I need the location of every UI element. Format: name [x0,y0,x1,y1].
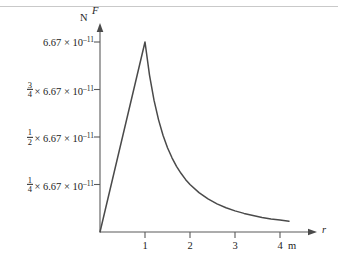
fraction-denominator: 2 [27,138,33,147]
fraction-one-half: 1 2 [27,128,33,146]
y-tick-label-max: 6.67 × 10–11 [43,36,100,49]
y-max-exponent: –11 [83,35,94,44]
y-axis-arrowhead [97,23,104,32]
y-tick-label-three-quarter: 3 4 × 6.67 × 10–11 [27,80,100,98]
x-axis-arrowhead [308,229,317,236]
y-quarter-exponent: –11 [83,178,94,187]
x-tick-label-4: 4 [277,241,282,252]
y-tq-times: × [34,86,40,97]
y-max-mantissa: 6.67 × 10 [43,37,83,48]
y-axis-quantity-label: F [92,6,98,17]
fraction-denominator: 4 [27,185,33,194]
fraction-three-quarter: 3 4 [27,80,33,98]
y-tq-exponent: –11 [83,83,94,92]
x-axis-unit-label: m [288,241,296,252]
y-half-mantissa: 6.67 × 10 [43,133,83,144]
y-tq-mantissa: 6.67 × 10 [43,86,83,97]
x-tick-label-3: 3 [232,241,237,252]
fraction-one-quarter: 1 4 [27,175,33,193]
y-quarter-mantissa: 6.67 × 10 [43,181,83,192]
force-curve [100,42,289,232]
y-half-exponent: –11 [83,131,94,140]
x-axis-quantity-label: r [322,225,326,236]
y-tick-label-quarter: 1 4 × 6.67 × 10–11 [27,175,100,193]
x-tick-label-1: 1 [142,241,147,252]
x-tick-label-2: 2 [187,241,192,252]
fraction-denominator: 4 [27,90,33,99]
y-tick-label-half: 1 2 × 6.67 × 10–11 [27,128,100,146]
y-half-times: × [34,133,40,144]
y-quarter-times: × [34,181,40,192]
figure-container: N F 6.67 × 10–11 3 4 × 6.67 × 10–11 1 2 … [0,0,338,264]
y-axis-unit-label: N [80,13,88,24]
